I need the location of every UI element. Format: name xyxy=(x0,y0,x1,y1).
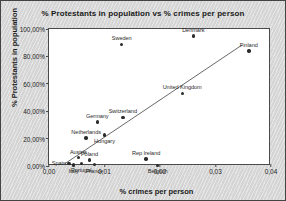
plot-inner: DenmarkFinlandSwedenUnited KingdomSwitze… xyxy=(49,29,269,164)
y-axis-tick-label: 100,00% xyxy=(20,26,49,33)
data-point xyxy=(103,133,106,136)
trend-line xyxy=(49,29,269,165)
data-point xyxy=(247,49,250,52)
data-point-label: Denmark xyxy=(182,27,204,33)
data-point-label: Netherlands xyxy=(71,129,101,135)
data-point-label: Hungary xyxy=(94,138,115,144)
data-point xyxy=(144,157,147,160)
data-point-label: Rep Ireland xyxy=(132,150,160,156)
x-axis-tick-label: 0,02 xyxy=(154,164,166,175)
data-point-label: Poland xyxy=(81,151,98,157)
chart-title: % Protestants in population vs % crimes … xyxy=(1,9,285,18)
data-point xyxy=(88,158,91,161)
x-axis-tick-label: 0,01 xyxy=(98,164,110,175)
data-point xyxy=(93,163,96,166)
data-point xyxy=(121,116,124,119)
y-axis-tick-label: 20,00% xyxy=(23,135,49,142)
data-point-label: Finland xyxy=(240,42,258,48)
data-point xyxy=(72,163,75,166)
x-axis-tick-label: 0,03 xyxy=(209,164,221,175)
data-point-label: Italy xyxy=(68,168,78,174)
data-point xyxy=(84,136,87,139)
data-point-label: Germany xyxy=(86,113,109,119)
data-point xyxy=(192,34,195,37)
y-axis-title: % Protestants in population xyxy=(10,0,19,118)
data-point xyxy=(67,162,70,165)
data-point xyxy=(96,120,99,123)
data-point xyxy=(181,92,184,95)
y-axis-tick-label: 40,00% xyxy=(23,108,49,115)
plot-area: DenmarkFinlandSwedenUnited KingdomSwitze… xyxy=(48,28,270,165)
x-axis-tick-label: 0,04 xyxy=(265,164,277,175)
chart-figure: % Protestants in population vs % crimes … xyxy=(0,0,286,201)
y-axis-tick-label: 80,00% xyxy=(23,53,49,60)
y-axis-tick-label: 60,00% xyxy=(23,80,49,87)
data-point-label: Switzerland xyxy=(109,108,137,114)
x-axis-tick-label: 0,00 xyxy=(43,164,55,175)
data-point-label: Sweden xyxy=(112,35,132,41)
data-point-label: United Kingdom xyxy=(163,84,202,90)
x-axis-title: % crimes per person xyxy=(34,187,279,196)
